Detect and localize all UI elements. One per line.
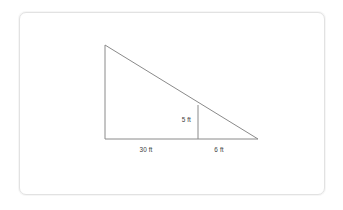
label-base-right: 6 ft (214, 146, 223, 153)
triangle-diagram: 5 ft 30 ft 6 ft (0, 0, 343, 210)
triangle-hypotenuse (105, 45, 258, 139)
label-base-left: 30 ft (140, 146, 153, 153)
figure-stage: 5 ft 30 ft 6 ft (0, 0, 343, 210)
label-interior-height: 5 ft (182, 116, 191, 123)
